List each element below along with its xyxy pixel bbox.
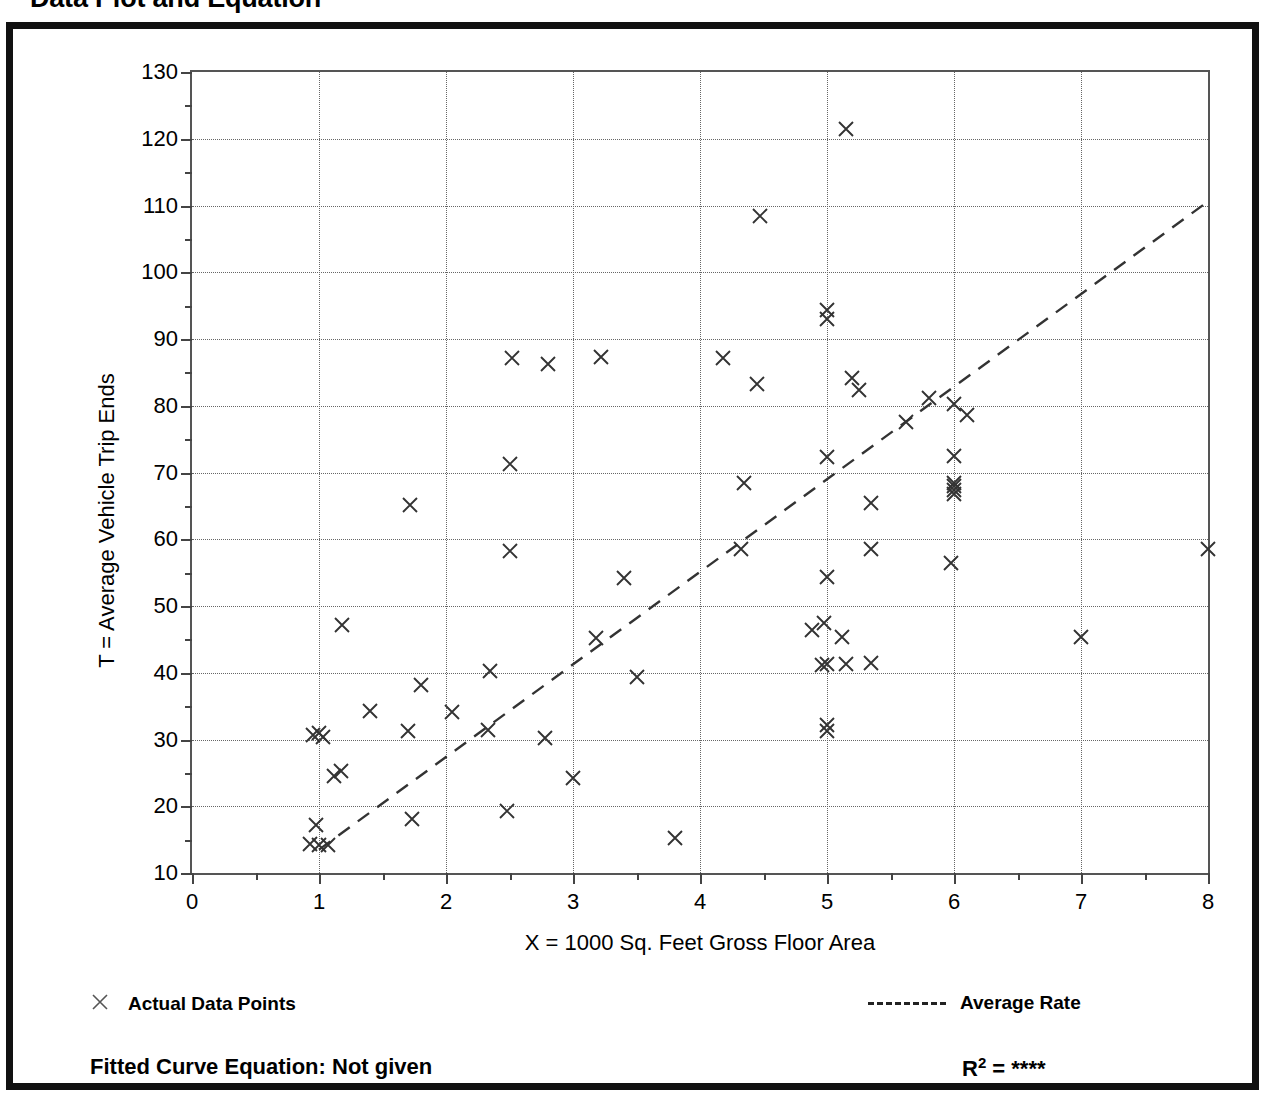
x-tick <box>1208 873 1210 884</box>
y-tick <box>181 673 192 675</box>
data-point-marker <box>860 652 882 674</box>
gridline-vertical <box>827 72 828 873</box>
gridline-horizontal <box>192 806 1208 807</box>
y-tick-label: 110 <box>143 193 178 219</box>
gridline-vertical <box>1081 72 1082 873</box>
gridline-horizontal <box>192 473 1208 474</box>
data-point-marker <box>479 660 501 682</box>
data-point-marker <box>410 674 432 696</box>
data-point-marker <box>537 353 559 375</box>
y-tick-minor <box>185 306 192 308</box>
x-tick-label: 3 <box>567 889 579 915</box>
y-tick-label: 90 <box>154 326 178 352</box>
data-point-marker <box>323 765 345 787</box>
y-tick <box>181 272 192 274</box>
data-point-marker <box>501 347 523 369</box>
y-tick-minor <box>185 439 192 441</box>
gridline-horizontal <box>192 139 1208 140</box>
y-tick <box>181 139 192 141</box>
x-tick <box>319 873 321 884</box>
data-point-marker <box>860 492 882 514</box>
data-point-marker <box>308 722 330 744</box>
data-point-marker <box>664 827 686 849</box>
y-tick-label: 100 <box>141 259 178 285</box>
chart-footer: Fitted Curve Equation: Not given R2 = **… <box>0 1054 1267 1094</box>
y-tick-minor <box>185 840 192 842</box>
page-title: Data Plot and Equation <box>30 0 321 14</box>
x-tick-label: 1 <box>313 889 325 915</box>
x-tick-minor <box>510 873 512 880</box>
data-point-marker <box>585 627 607 649</box>
y-tick-label: 80 <box>154 393 178 419</box>
data-point-marker <box>841 367 863 389</box>
gridline-horizontal <box>192 606 1208 607</box>
x-tick <box>1081 873 1083 884</box>
x-tick-label: 2 <box>440 889 452 915</box>
data-point-marker <box>441 701 463 723</box>
data-point-marker <box>308 834 330 856</box>
y-tick <box>181 740 192 742</box>
data-point-marker <box>733 472 755 494</box>
r-squared-value: R2 = **** <box>962 1054 1046 1082</box>
x-tick <box>573 873 575 884</box>
gridline-horizontal <box>192 339 1208 340</box>
data-point-marker <box>1070 626 1092 648</box>
data-point-marker <box>401 808 423 830</box>
data-point-marker <box>816 446 838 468</box>
data-point-marker <box>359 700 381 722</box>
x-tick-minor <box>383 873 385 880</box>
gridline-horizontal <box>192 539 1208 540</box>
gridline-vertical <box>700 72 701 873</box>
y-tick-label: 10 <box>154 860 178 886</box>
y-axis-title-wrapper: T = Average Vehicle Trip Ends <box>46 70 74 875</box>
gridline-vertical <box>573 72 574 873</box>
data-point-marker <box>816 299 838 321</box>
x-tick <box>192 873 194 884</box>
x-tick-label: 8 <box>1202 889 1214 915</box>
x-tick <box>700 873 702 884</box>
data-point-marker <box>848 379 870 401</box>
y-tick-minor <box>185 706 192 708</box>
x-tick-minor <box>764 873 766 880</box>
gridline-vertical <box>954 72 955 873</box>
data-point-marker <box>835 118 857 140</box>
y-tick-label: 120 <box>141 126 178 152</box>
data-point-marker <box>816 566 838 588</box>
data-point-marker <box>305 814 327 836</box>
data-point-marker <box>730 538 752 560</box>
y-tick <box>181 206 192 208</box>
data-point-marker <box>330 760 352 782</box>
chart-legend: Actual Data Points Average Rate <box>0 992 1267 1026</box>
data-point-marker <box>613 567 635 589</box>
gridline-horizontal <box>192 272 1208 273</box>
x-axis-title: X = 1000 Sq. Feet Gross Floor Area <box>190 930 1210 956</box>
plot-frame: 102030405060708090100110120130 012345678 <box>190 70 1210 875</box>
data-point-marker <box>831 626 853 648</box>
x-tick-label: 5 <box>821 889 833 915</box>
x-tick <box>954 873 956 884</box>
y-tick-minor <box>185 172 192 174</box>
data-point-marker <box>940 552 962 574</box>
data-point-marker <box>299 833 321 855</box>
data-point-marker <box>943 483 965 505</box>
data-point-marker <box>816 714 838 736</box>
x-tick-label: 6 <box>948 889 960 915</box>
data-point-marker <box>943 393 965 415</box>
data-point-marker <box>712 347 734 369</box>
gridline-horizontal <box>192 740 1208 741</box>
dashed-line-icon <box>868 1002 946 1005</box>
y-tick <box>181 606 192 608</box>
data-point-marker <box>943 472 965 494</box>
gridline-vertical <box>446 72 447 873</box>
x-tick-minor <box>891 873 893 880</box>
data-point-marker <box>895 411 917 433</box>
y-tick-minor <box>185 506 192 508</box>
x-tick-minor <box>256 873 258 880</box>
data-point-marker <box>499 540 521 562</box>
y-tick-minor <box>185 105 192 107</box>
y-tick-minor <box>185 239 192 241</box>
y-tick <box>181 539 192 541</box>
data-point-marker <box>835 653 857 675</box>
fitted-curve-equation: Fitted Curve Equation: Not given <box>90 1054 432 1080</box>
gridline-vertical <box>319 72 320 873</box>
